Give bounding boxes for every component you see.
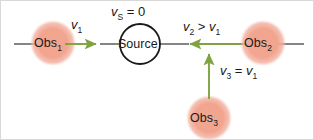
velocity-label-v1-sub: 1 xyxy=(78,25,83,35)
observer-2-label-text: Obs xyxy=(244,36,267,50)
observer-1-label-sub: 1 xyxy=(57,43,62,53)
velocity-label-v2-operator: > xyxy=(194,19,209,34)
velocity-label-v2-rhs-sub: 1 xyxy=(216,27,221,37)
diagram-canvas xyxy=(1,1,314,140)
velocity-label-v3-operator: = xyxy=(231,63,246,78)
observer-2-label: Obs2 xyxy=(244,36,272,53)
source-velocity-value: 0 xyxy=(138,4,145,19)
observer-3-label: Obs3 xyxy=(190,111,218,128)
observer-3-label-text: Obs xyxy=(190,111,213,125)
source-velocity-label: vS = 0 xyxy=(111,4,145,22)
velocity-label-v3-eq-v1: v3 = v1 xyxy=(220,63,257,81)
doppler-effect-diagram: Obs1 Source Obs2 Obs3 vS = 0 v1 v2 > v1 … xyxy=(0,0,314,140)
observer-1-label: Obs1 xyxy=(34,36,62,53)
velocity-label-v1: v1 xyxy=(71,17,82,35)
observer-2-label-sub: 2 xyxy=(267,43,272,53)
observer-3-label-sub: 3 xyxy=(213,118,218,128)
velocity-label-v2-gt-v1: v2 > v1 xyxy=(183,19,220,37)
source-velocity-operator: = xyxy=(123,4,138,19)
velocity-label-v3-rhs-sub: 1 xyxy=(253,71,258,81)
observer-1-label-text: Obs xyxy=(34,36,57,50)
sound-source-label-text: Source xyxy=(118,37,158,51)
sound-source-label: Source xyxy=(118,37,158,51)
